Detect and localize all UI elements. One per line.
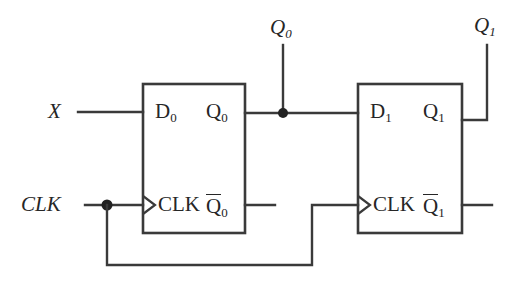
flipflop-0-qbar-pin-label: Q0: [206, 192, 228, 219]
wire-q1-output: [462, 45, 487, 120]
flipflop-0-clk-pin-label: CLK: [158, 194, 200, 215]
flipflop-1-q-pin-label: Q1: [423, 101, 445, 124]
q0-junction-dot: [278, 108, 288, 118]
circuit-diagram: X CLK Q0 Q1 D0 Q0 CLK Q0 D1 Q1 CLK Q1: [0, 0, 521, 284]
flipflop-1-qbar-pin-label: Q1: [423, 192, 445, 219]
flipflop-0-d-pin-label: D0: [155, 101, 177, 124]
flipflop-0-q-pin-label: Q0: [206, 101, 228, 124]
q1-output-label: Q1: [474, 15, 496, 38]
schematic-wires: [0, 0, 521, 284]
clk-input-label: CLK: [21, 194, 61, 215]
flipflop-1-d-pin-label: D1: [370, 101, 392, 124]
q0-output-label: Q0: [270, 17, 292, 40]
flipflop-1-clk-pin-label: CLK: [373, 194, 415, 215]
x-input-label: X: [48, 101, 61, 122]
